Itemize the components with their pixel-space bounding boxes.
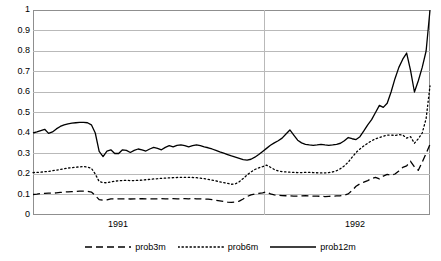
y-axis-tick-label: 0.7 — [0, 67, 30, 76]
legend-swatch-dotted-icon — [178, 243, 224, 251]
legend-label: prob12m — [320, 242, 356, 252]
chart-container: 00.10.20.30.40.50.60.70.80.91 19911992 p… — [0, 0, 441, 261]
y-axis-tick-label: 0.8 — [0, 46, 30, 55]
y-axis-tick-label: 0 — [0, 210, 30, 219]
y-axis-tick-label: 0.4 — [0, 128, 30, 137]
y-axis-tick-label: 0.1 — [0, 190, 30, 199]
legend-item-prob12m: prob12m — [270, 242, 356, 252]
legend-item-prob6m: prob6m — [178, 242, 259, 252]
legend-label: prob6m — [228, 242, 259, 252]
y-axis-tick-label: 1 — [0, 5, 30, 14]
y-axis-tick-label: 0.6 — [0, 87, 30, 96]
series-line-prob6m — [33, 86, 430, 184]
legend-swatch-solid-icon — [270, 243, 316, 251]
x-axis-tick-label: 1991 — [88, 220, 148, 229]
y-axis-tick-label: 0.2 — [0, 169, 30, 178]
legend-swatch-dashed-icon — [85, 243, 131, 251]
series-line-prob12m — [33, 10, 430, 160]
legend-item-prob3m: prob3m — [85, 242, 166, 252]
legend-label: prob3m — [135, 242, 166, 252]
y-axis-tick-label: 0.5 — [0, 108, 30, 117]
chart-legend: prob3mprob6mprob12m — [0, 239, 441, 255]
series-lines — [33, 10, 430, 202]
x-axis-tick-label: 1992 — [325, 220, 385, 229]
series-line-prob3m — [33, 144, 430, 202]
y-axis-tick-label: 0.9 — [0, 26, 30, 35]
y-axis-tick-label: 0.3 — [0, 149, 30, 158]
